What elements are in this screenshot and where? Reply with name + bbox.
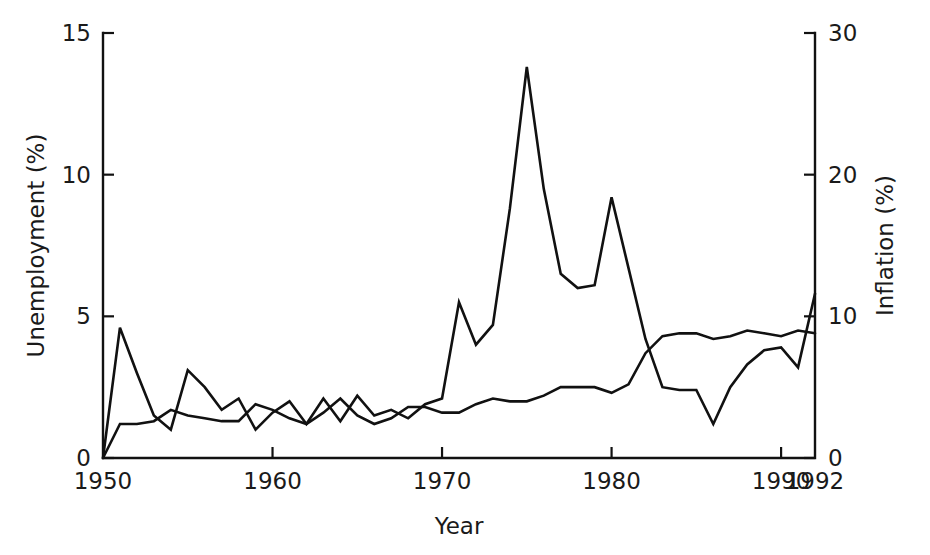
y2-axis-tick-label: 30 xyxy=(828,20,857,46)
y2-axis-tick-label: 20 xyxy=(828,162,857,188)
x-axis-title: Year xyxy=(434,513,484,539)
y-axis-tick-label: 5 xyxy=(76,303,91,329)
x-axis-tick-label: 1960 xyxy=(243,468,302,494)
y-axis-tick-label: 10 xyxy=(62,162,91,188)
y2-axis-title: Inflation (%) xyxy=(872,175,898,316)
x-axis-tick-label: 1980 xyxy=(582,468,641,494)
x-axis-tick-label: 1970 xyxy=(413,468,472,494)
series-group xyxy=(103,67,815,458)
chart-canvas: 0510150102030195019601970198019901992 Ye… xyxy=(0,0,930,555)
chart-figure: 0510150102030195019601970198019901992 Ye… xyxy=(0,0,930,555)
ticks-group: 0510150102030195019601970198019901992 xyxy=(62,20,858,494)
x-axis-tick-label: 1992 xyxy=(786,468,845,494)
series-line-inflation xyxy=(103,67,815,458)
y-axis-tick-label: 15 xyxy=(62,20,91,46)
y2-axis-tick-label: 10 xyxy=(828,303,857,329)
y-axis-title: Unemployment (%) xyxy=(23,134,49,358)
x-axis-tick-label: 1950 xyxy=(74,468,133,494)
